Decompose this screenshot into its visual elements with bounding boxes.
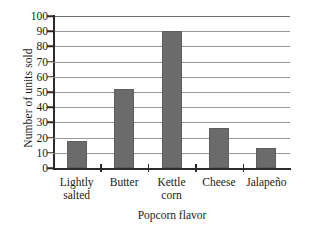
y-axis-tick-mark	[47, 76, 55, 78]
y-axis-tick-label: 50	[22, 87, 48, 98]
y-axis-tick-mark	[47, 46, 55, 48]
y-axis-tick-labels: 0102030405060708090100	[22, 16, 48, 168]
x-axis-tick-label: Kettle corn	[157, 176, 185, 201]
x-axis-tick-label: Cheese	[202, 176, 235, 189]
y-axis-tick-label: 20	[22, 132, 48, 143]
bar	[114, 89, 134, 168]
y-axis-tick-label: 90	[22, 26, 48, 37]
y-axis-tick-label: 100	[22, 11, 48, 22]
bar-chart: Number of units sold 0102030405060708090…	[0, 0, 311, 237]
plot-area	[53, 16, 290, 168]
x-axis-tick-mark	[100, 164, 102, 172]
x-axis-tick-labels: Lightly saltedButterKettle cornCheeseJal…	[53, 176, 291, 206]
bar	[209, 128, 229, 168]
bar	[162, 31, 182, 168]
y-axis-tick-mark	[47, 152, 55, 154]
y-axis-tick-label: 30	[22, 117, 48, 128]
x-axis-tick-label: Jalapeño	[246, 176, 286, 189]
y-axis-tick-mark	[47, 106, 55, 108]
x-axis-tick-label: Butter	[110, 176, 139, 189]
y-axis-tick-mark	[47, 122, 55, 124]
bar-series	[53, 16, 290, 168]
y-axis-tick-label: 10	[22, 147, 48, 158]
x-axis-tick-label: Lightly salted	[60, 176, 94, 201]
y-axis-tick-label: 70	[22, 56, 48, 67]
y-axis-tick-mark	[47, 61, 55, 63]
y-axis-tick-label: 40	[22, 102, 48, 113]
y-axis-tick-mark	[47, 167, 55, 169]
bar	[256, 148, 276, 168]
x-axis-tick-mark	[195, 164, 197, 172]
y-axis-tick-label: 60	[22, 71, 48, 82]
y-axis-tick-mark	[47, 91, 55, 93]
x-axis-tick-mark	[148, 164, 150, 172]
x-axis-line	[53, 168, 291, 170]
bar	[67, 141, 87, 168]
y-axis-tick-label: 80	[22, 41, 48, 52]
y-axis-tick-mark	[47, 137, 55, 139]
y-axis-tick-mark	[47, 30, 55, 32]
y-axis-tick-mark	[47, 15, 55, 17]
x-axis-title: Popcorn flavor	[53, 209, 291, 221]
x-axis-tick-mark	[243, 164, 245, 172]
y-axis-tick-label: 0	[22, 163, 48, 174]
